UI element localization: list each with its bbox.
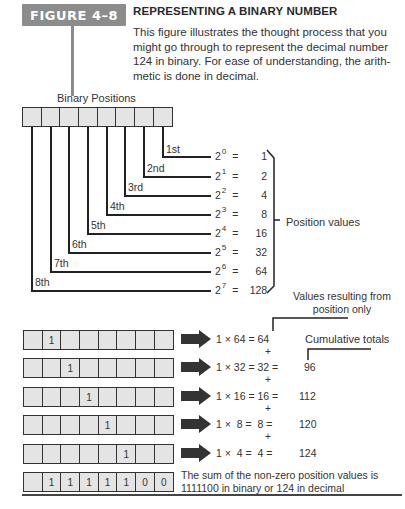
leader-vline-7th: [50, 127, 52, 272]
bit-cell: [155, 331, 173, 349]
power-equation: 26 = 64: [215, 262, 267, 277]
bit-cell: [24, 445, 43, 463]
leader-hline-8th: [31, 290, 211, 292]
power-equation: 21 = 2: [215, 167, 267, 182]
step-row-bits: 1: [23, 444, 174, 464]
step-row-bits: 1: [23, 387, 174, 407]
bit-cell: [136, 416, 155, 434]
position-values-label: Position values: [286, 216, 360, 228]
step-expression: 1 × 16 = 16 =: [216, 390, 278, 402]
bit-cell: [80, 331, 99, 349]
power-base: 2: [215, 189, 221, 201]
arrow-right-icon: [181, 444, 213, 462]
power-value: 2: [241, 170, 267, 182]
leader-vline-8th: [31, 127, 33, 291]
position-cell: [154, 108, 172, 126]
plus-sign: +: [265, 374, 271, 385]
values-resulting-label: Values resulting from position only: [282, 290, 402, 316]
power-exponent: 2: [222, 186, 226, 195]
bit-cell: [61, 331, 80, 349]
position-cell: [42, 108, 61, 126]
bit-cell: [43, 359, 62, 377]
step-row-bits: 1: [23, 330, 174, 350]
power-equation: 20 = 1: [215, 147, 267, 162]
bit-cell: 0: [136, 473, 155, 491]
ordinal-label: 6th: [72, 238, 87, 250]
leader-hline-1st: [162, 156, 211, 158]
arrow-right-icon: [181, 330, 213, 348]
bit-cell: [117, 331, 136, 349]
position-cell: [135, 108, 154, 126]
power-exponent: 6: [222, 262, 226, 271]
bit-cell: [155, 445, 173, 463]
step-row-bits: 1: [23, 415, 174, 435]
bit-cell: 1: [43, 473, 62, 491]
leader-vline-3rd: [124, 127, 126, 196]
power-equation: 25 = 32: [215, 243, 267, 258]
ordinal-label: 7th: [54, 257, 69, 269]
power-base: 2: [215, 150, 221, 162]
bit-cell: [80, 445, 99, 463]
bit-cell: [155, 388, 173, 406]
power-equation: 23 = 8: [215, 205, 267, 220]
leader-hline-3rd: [124, 195, 211, 197]
bit-cell: 0: [155, 473, 173, 491]
power-value: 4: [241, 189, 267, 201]
leader-hline-4th: [106, 214, 211, 216]
ordinal-label: 1st: [166, 143, 180, 155]
position-cell: [79, 108, 98, 126]
arrow-right-icon: [181, 415, 213, 433]
bit-cell: 1: [117, 445, 136, 463]
arrow-right-icon: [181, 387, 213, 405]
bit-cell: [136, 445, 155, 463]
bit-cell: 1: [99, 473, 118, 491]
bottom-rule: [22, 494, 402, 496]
leader-vline-6th: [68, 127, 70, 253]
bit-cell: [80, 359, 99, 377]
bit-cell: [24, 416, 43, 434]
bit-cell: [80, 416, 99, 434]
bit-cell: 1: [43, 331, 62, 349]
bit-cell: [61, 416, 80, 434]
bit-cell: [61, 388, 80, 406]
bit-cell: [117, 416, 136, 434]
values-resulting-pointer: [270, 316, 350, 332]
plus-sign: +: [265, 346, 271, 357]
figure-description: This figure illustrates the thought proc…: [133, 25, 398, 84]
bit-cell: 1: [80, 388, 99, 406]
final-bits: 1 1 1 1 1 0 0: [23, 472, 174, 492]
power-value: 128: [241, 284, 267, 296]
figure-title: REPRESENTING A BINARY NUMBER: [133, 5, 338, 17]
figure-badge-stem: [71, 26, 74, 96]
leader-hline-2nd: [143, 176, 211, 178]
cumulative-total: 124: [299, 447, 317, 459]
power-exponent: 0: [222, 147, 226, 156]
power-exponent: 3: [222, 205, 226, 214]
binary-positions-boxes: [22, 107, 173, 127]
plus-sign: +: [265, 403, 271, 414]
ordinal-label: 3rd: [128, 181, 143, 193]
power-base: 2: [215, 265, 221, 277]
cumulative-total: 96: [304, 361, 316, 373]
summary-line1: The sum of the non-zero position values …: [181, 469, 378, 482]
power-value: 16: [241, 227, 267, 239]
step-expression: 1 × 64 = 64: [216, 333, 269, 345]
bit-cell: [43, 445, 62, 463]
bit-cell: [136, 359, 155, 377]
bit-cell: 1: [80, 473, 99, 491]
power-equation: 27 = 128: [215, 281, 267, 296]
step-expression: 1 × 32 = 32 =: [216, 361, 278, 373]
bit-cell: [99, 445, 118, 463]
values-resulting-line1: Values resulting from: [282, 290, 402, 303]
power-equation: 22 = 4: [215, 186, 267, 201]
leader-hline-7th: [50, 271, 211, 273]
bit-cell: [24, 331, 43, 349]
power-exponent: 1: [222, 167, 226, 176]
ordinal-label: 5th: [91, 219, 106, 231]
bit-cell: [99, 388, 118, 406]
position-cell: [23, 108, 42, 126]
power-base: 2: [215, 227, 221, 239]
bit-cell: 1: [117, 473, 136, 491]
arrow-right-icon: [181, 358, 213, 376]
cumulative-total: 120: [299, 418, 317, 430]
